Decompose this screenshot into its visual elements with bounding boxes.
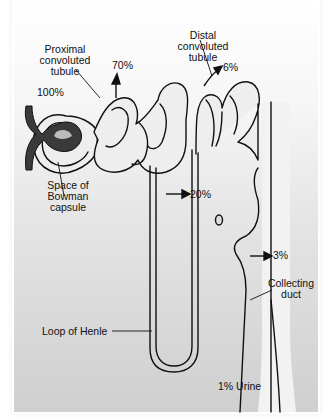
label-line: capsule xyxy=(36,202,100,213)
label-line: tubule xyxy=(30,66,100,77)
label-proximal-tubule: Proximal convoluted tubule xyxy=(30,44,100,77)
label-collecting-duct: Collecting duct xyxy=(262,278,320,300)
label-distal-tubule: Distal convoluted tubule xyxy=(168,30,238,63)
label-line: duct xyxy=(262,289,320,300)
label-bowman-capsule: Space of Bowman capsule xyxy=(36,180,100,213)
pct-proximal: 70% xyxy=(112,60,133,71)
proximal-tubule xyxy=(94,83,188,173)
pct-urine: 1% Urine xyxy=(218,381,261,392)
pct-loop: 20% xyxy=(190,189,211,200)
pct-distal: 6% xyxy=(223,62,238,73)
pct-glomerulus: 100% xyxy=(37,87,64,98)
pct-collecting: 3% xyxy=(273,250,288,261)
label-loop-of-henle: Loop of Henle xyxy=(42,326,107,337)
distal-tubule xyxy=(196,82,259,160)
